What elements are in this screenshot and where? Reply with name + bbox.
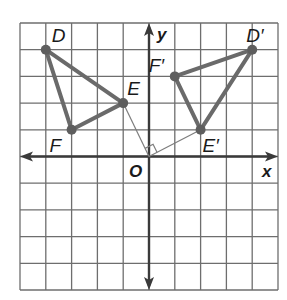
coordinate-plane-diagram: y x O DEFD′E′F′ — [0, 0, 287, 300]
x-axis-label: x — [261, 162, 273, 181]
vertex-point-icon — [196, 125, 206, 135]
vertex-point-icon — [247, 45, 257, 55]
origin-label: O — [129, 162, 142, 181]
vertex-point-icon — [41, 45, 51, 55]
y-axis-label: y — [156, 25, 168, 44]
vertex-point-icon — [118, 98, 128, 108]
vertex-point-icon — [67, 125, 77, 135]
vertex-label: D — [52, 25, 66, 46]
triangle-DEF — [46, 50, 123, 130]
vertex-label: D′ — [246, 25, 265, 46]
triangle-DEF-prime — [175, 50, 252, 130]
vertex-point-icon — [170, 71, 180, 81]
vertex-label: E′ — [203, 135, 221, 156]
vertex-label: F — [50, 135, 63, 156]
vertex-label: F′ — [149, 55, 166, 76]
vertex-label: E — [127, 78, 140, 99]
